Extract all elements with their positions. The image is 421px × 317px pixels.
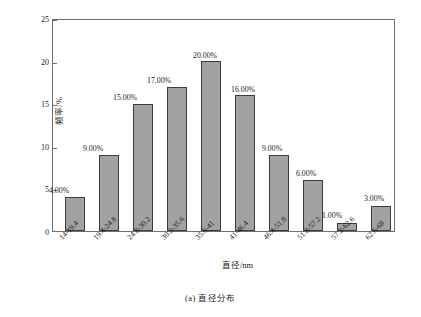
y-tick-mark-25 <box>53 20 57 21</box>
y-tick-mark-20 <box>53 63 57 64</box>
bar-5 <box>235 95 255 231</box>
bar-3 <box>167 87 187 231</box>
bar-label-0: 4.00% <box>49 187 69 195</box>
bar-label-4: 20.00% <box>193 52 217 60</box>
figure-caption: (a) 直径分布 <box>0 291 421 303</box>
bar-label-8: 1.00% <box>322 212 342 220</box>
y-tick-label-10: 10 <box>31 144 49 152</box>
y-tick-label-5: 5 <box>31 186 49 194</box>
bar-label-5: 16.00% <box>231 86 255 94</box>
y-tick-label-0: 0 <box>31 229 49 237</box>
y-axis-title: 频率/% <box>52 81 66 141</box>
plot-area: 频率/% 25 20 15 10 5 0 4 <box>52 19 395 232</box>
y-tick-mark-15 <box>53 105 57 106</box>
bar-label-6: 9.00% <box>262 145 282 153</box>
y-tick-mark-10 <box>53 148 57 149</box>
x-axis-title: 直径/nm <box>222 258 253 270</box>
bar-4 <box>201 61 221 231</box>
bar-label-7: 6.00% <box>296 170 316 178</box>
y-tick-label-20: 20 <box>31 59 49 67</box>
bar-2 <box>133 104 153 231</box>
figure-diameter-distribution: 频率/% 25 20 15 10 5 0 4 <box>0 0 421 317</box>
bar-label-1: 9.00% <box>83 145 103 153</box>
bar-label-9: 3.00% <box>364 195 384 203</box>
bar-label-3: 17.00% <box>147 77 171 85</box>
y-tick-label-25: 25 <box>31 16 49 24</box>
bar-label-2: 15.00% <box>113 94 137 102</box>
y-tick-label-15: 15 <box>31 101 49 109</box>
